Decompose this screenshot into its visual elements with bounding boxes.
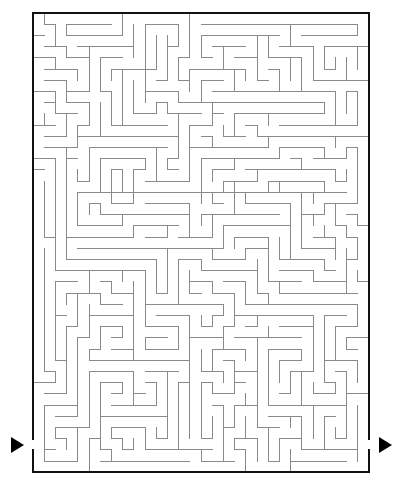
entrance-arrow <box>11 437 24 453</box>
exit-arrow <box>379 437 392 453</box>
maze-canvas <box>0 0 404 500</box>
maze-page <box>0 0 404 500</box>
